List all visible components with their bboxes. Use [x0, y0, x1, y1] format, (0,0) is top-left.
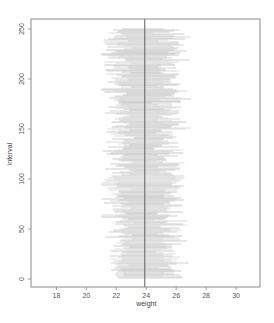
x-tick-label: 26	[172, 292, 180, 299]
x-tick-label: 20	[82, 292, 90, 299]
x-tick-label: 24	[142, 292, 150, 299]
y-tick-label: 50	[18, 225, 25, 233]
x-tick-label: 30	[232, 292, 240, 299]
y-tick-label: 100	[18, 173, 25, 185]
x-axis: 18202224262830	[53, 287, 241, 299]
x-axis-label: weight	[135, 300, 156, 308]
y-tick-label: 0	[18, 277, 25, 281]
x-tick-label: 18	[53, 292, 61, 299]
y-axis: 050100150200250	[18, 23, 31, 281]
y-tick-label: 250	[18, 23, 25, 35]
x-tick-label: 28	[202, 292, 210, 299]
y-axis-label: interval	[6, 142, 13, 165]
interval-segments	[101, 29, 191, 278]
y-tick-label: 150	[18, 123, 25, 135]
y-tick-label: 200	[18, 73, 25, 85]
x-tick-label: 22	[112, 292, 120, 299]
interval-chart: 18202224262830 050100150200250 weight in…	[0, 0, 274, 323]
